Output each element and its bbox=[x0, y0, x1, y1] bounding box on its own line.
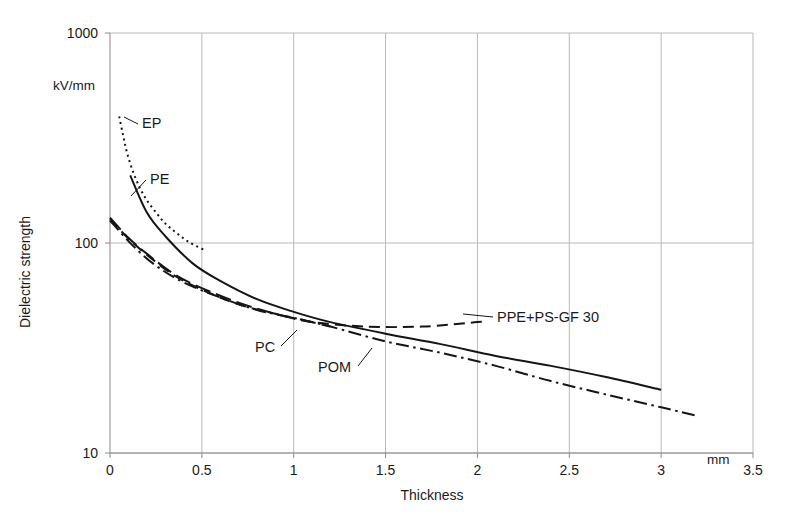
x-tick-label-3: 3 bbox=[657, 462, 665, 478]
x-tick-label-1.5: 1.5 bbox=[376, 462, 396, 478]
series-label-pom: POM bbox=[318, 359, 351, 375]
series-group bbox=[110, 117, 698, 416]
series-label-ppe-ps-gf-30: PPE+PS-GF 30 bbox=[497, 309, 599, 325]
y-axis-title: Dielectric strength bbox=[17, 216, 33, 328]
x-tick-label-2: 2 bbox=[474, 462, 482, 478]
x-tick-label-0.5: 0.5 bbox=[192, 462, 212, 478]
y-tick-label-100: 100 bbox=[75, 235, 99, 251]
x-tick-label-0: 0 bbox=[106, 462, 114, 478]
leader-line-ppe-ps-gf-30 bbox=[463, 314, 493, 317]
y-tick-label-10: 10 bbox=[82, 445, 98, 461]
dielectric-strength-chart: 00.511.522.533.5 101001000 EPPEPPE+PS-GF… bbox=[0, 0, 795, 528]
x-tick-label-2.5: 2.5 bbox=[560, 462, 580, 478]
leader-line-ep bbox=[124, 117, 138, 124]
series-curve-pe bbox=[130, 175, 661, 389]
leader-line-pom bbox=[358, 348, 372, 366]
x-unit-label: mm bbox=[707, 452, 730, 467]
x-tick-label-3.5: 3.5 bbox=[743, 462, 763, 478]
series-curve-pom bbox=[110, 220, 698, 416]
series-label-pc: PC bbox=[255, 339, 275, 355]
series-labels-group: EPPEPPE+PS-GF 30PCPOM bbox=[124, 115, 599, 375]
y-unit-label: kV/mm bbox=[53, 78, 95, 93]
x-tick-labels: 00.511.522.533.5 bbox=[106, 462, 763, 478]
grid-group bbox=[110, 33, 753, 453]
series-label-ep: EP bbox=[142, 115, 161, 131]
leader-line-pc bbox=[281, 330, 297, 346]
x-axis-title: Thickness bbox=[400, 487, 463, 503]
chart-container: 00.511.522.533.5 101001000 EPPEPPE+PS-GF… bbox=[0, 0, 795, 528]
series-curve-pc bbox=[110, 218, 330, 327]
y-tick-label-1000: 1000 bbox=[67, 25, 98, 41]
x-tick-label-1: 1 bbox=[290, 462, 298, 478]
series-label-pe: PE bbox=[150, 171, 170, 187]
